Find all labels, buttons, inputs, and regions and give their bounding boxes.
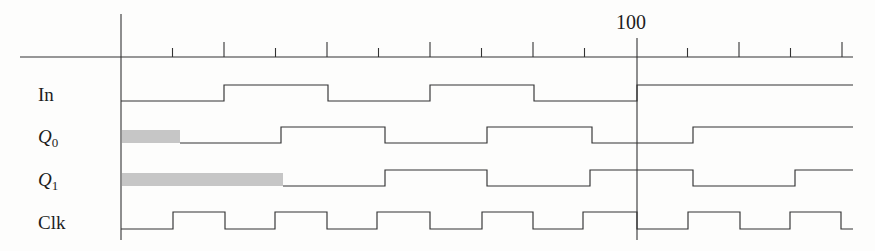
waveform-q1 (283, 170, 853, 186)
waveform-q0 (180, 127, 853, 143)
unknown-band-q1 (122, 173, 283, 186)
waveform-in (121, 85, 853, 101)
waveform-clk (121, 212, 853, 229)
unknown-state-bands (122, 130, 283, 186)
signal-waveforms (121, 85, 853, 229)
waveform-canvas (0, 0, 875, 251)
unknown-band-q0 (122, 130, 180, 143)
timing-diagram-figure: In Q0 Q1 Clk 100 (0, 0, 875, 251)
